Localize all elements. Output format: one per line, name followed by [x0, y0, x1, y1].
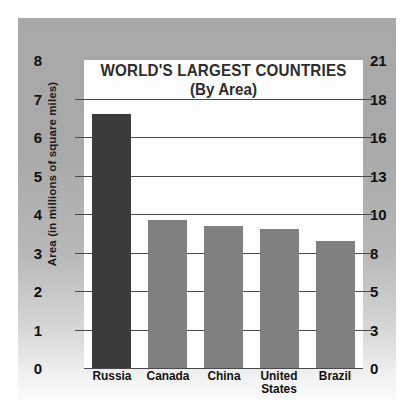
chart-panel: 87654321021181613108530 Area (in million… — [18, 18, 396, 400]
chart-figure: 87654321021181613108530 Area (in million… — [0, 0, 414, 417]
y-tick-label-right-18: 18 — [370, 92, 394, 107]
category-labels: RussiaCanadaChinaUnitedStatesBrazil — [84, 370, 363, 410]
y-tick-mark-right — [363, 214, 372, 215]
category-label-canada: Canada — [141, 370, 194, 383]
y-tick-label-left-4: 4 — [22, 207, 42, 222]
y-tick-mark-right — [363, 137, 372, 138]
bar-canada[interactable] — [148, 220, 187, 368]
y-tick-mark-right — [363, 253, 372, 254]
y-tick-label-right-21: 21 — [370, 53, 394, 68]
y-tick-mark-left — [75, 291, 84, 292]
y-tick-label-left-5: 5 — [22, 169, 42, 184]
category-label-brazil: Brazil — [308, 370, 361, 383]
plot-area — [84, 60, 363, 368]
category-label-line: China — [197, 370, 250, 383]
y-tick-mark-left — [75, 214, 84, 215]
bar-china[interactable] — [204, 226, 243, 368]
bar-brazil[interactable] — [316, 241, 355, 368]
y-tick-label-left-0: 0 — [22, 361, 42, 376]
y-tick-label-left-7: 7 — [22, 92, 42, 107]
y-tick-mark-left — [75, 176, 84, 177]
y-tick-mark-right — [363, 176, 372, 177]
bar-united-states[interactable] — [260, 229, 299, 368]
y-tick-label-left-6: 6 — [22, 130, 42, 145]
y-tick-mark-left — [75, 137, 84, 138]
y-tick-mark-left — [75, 99, 84, 100]
bar-russia[interactable] — [92, 114, 131, 368]
y-tick-label-right-8: 8 — [370, 246, 394, 261]
bar-series — [84, 60, 363, 368]
y-tick-label-right-3: 3 — [370, 323, 394, 338]
y-axis-title-left: Area (in millions of square miles) — [46, 74, 58, 274]
y-tick-mark-right — [363, 291, 372, 292]
y-tick-label-right-13: 13 — [370, 169, 394, 184]
y-tick-mark-left — [75, 330, 84, 331]
y-tick-label-right-5: 5 — [370, 284, 394, 299]
y-tick-label-right-10: 10 — [370, 207, 394, 222]
y-tick-mark-left — [75, 253, 84, 254]
y-tick-label-left-2: 2 — [22, 284, 42, 299]
category-label-line: Canada — [141, 370, 194, 383]
category-label-russia: Russia — [85, 370, 138, 383]
y-tick-mark-right — [363, 99, 372, 100]
category-label-line: Russia — [85, 370, 138, 383]
y-tick-mark-right — [363, 330, 372, 331]
y-tick-label-left-8: 8 — [22, 53, 42, 68]
y-tick-label-right-0: 0 — [370, 361, 394, 376]
y-tick-label-left-1: 1 — [22, 323, 42, 338]
y-tick-label-right-16: 16 — [370, 130, 394, 145]
category-label-china: China — [197, 370, 250, 383]
category-label-united-states: UnitedStates — [252, 370, 305, 396]
category-label-line: Brazil — [308, 370, 361, 383]
category-label-line: States — [252, 383, 305, 396]
y-tick-label-left-3: 3 — [22, 246, 42, 261]
